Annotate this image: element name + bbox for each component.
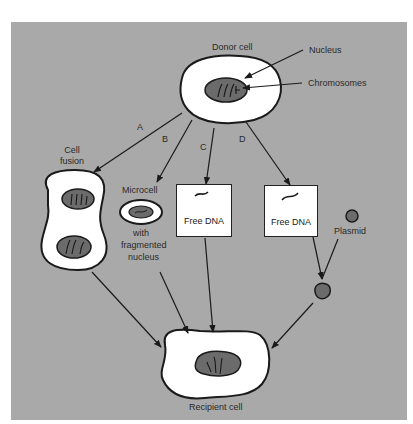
nucleus-label: Nucleus [309,45,342,56]
free-dna-c-label: Free DNA [177,216,231,226]
fused-cell [41,170,106,270]
pathway-a-letter: A [137,122,143,133]
microcell-sublabel-2: fragmented [121,240,167,251]
plasmid-icon [346,210,358,222]
arrow-freedna-to-recipient [205,238,213,332]
donor-cell [180,56,281,124]
free-dna-d-label: Free DNA [265,217,317,227]
recipient-cell-label: Recipient cell [189,402,243,413]
microcell [120,200,162,224]
pathway-b-letter: B [162,134,168,145]
pathway-d-letter: D [239,134,246,145]
recipient-cell [162,330,270,399]
arrow-plasmid-merge [322,239,338,279]
cell-fusion-label: Cell fusion [58,145,86,167]
arrow-c [206,128,214,184]
chromosomes-label: Chromosomes [308,78,367,89]
arrow-plasmid-to-recipient [272,303,313,348]
donor-cell-label: Donor cell [212,42,253,53]
microcell-sublabel-1: with [133,228,149,239]
pathway-c-letter: C [200,142,207,153]
arrow-microcell-to-recipient [160,272,188,333]
free-dna-box-d: Free DNA [264,185,318,237]
recombinant-plasmid-icon [315,283,330,298]
plasmid-label: Plasmid [334,226,366,237]
arrow-d [246,122,290,185]
microcell-label: Microcell [122,185,158,196]
arrow-fusion-to-recipient [92,272,161,347]
microcell-sublabel-3: nucleus [128,252,159,263]
arrow-b [157,120,192,182]
arrow-dna-to-plasmid [313,237,322,279]
free-dna-box-c: Free DNA [176,184,232,237]
